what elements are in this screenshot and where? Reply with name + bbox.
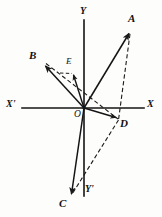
point-label-d: D — [120, 118, 128, 129]
diagram-canvas — [0, 0, 162, 217]
origin-point — [83, 107, 86, 110]
dashed-tick-e — [60, 73, 72, 74]
axis-label-y-prime: Y' — [85, 184, 94, 194]
vector-oc — [72, 108, 85, 194]
point-label-b: B — [29, 50, 36, 61]
point-label-e: E — [66, 57, 72, 66]
dashed-line-dc — [72, 120, 119, 195]
origin-label: O — [74, 110, 81, 120]
axis-label-x: X — [147, 99, 154, 109]
vector-diagram-figure: g Y X X' Y' O A B C D — [0, 0, 162, 217]
vector-oa — [84, 34, 129, 109]
dashed-line-bd — [46, 64, 118, 120]
axis-label-y: Y — [80, 6, 86, 16]
axis-label-x-prime: X' — [6, 99, 15, 109]
vector-od — [84, 108, 116, 118]
point-label-c: C — [59, 198, 66, 209]
vector-ob — [46, 66, 85, 108]
point-label-a: A — [128, 13, 135, 24]
